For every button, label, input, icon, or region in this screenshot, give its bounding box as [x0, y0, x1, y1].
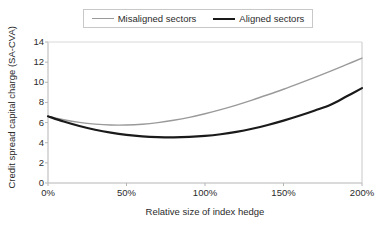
legend-label-misaligned: Misaligned sectors: [118, 14, 197, 24]
x-tick-label-group: 0%50%100%150%200%: [0, 0, 392, 231]
legend-line-icon-misaligned: [92, 18, 114, 19]
legend-item-aligned-sectors[interactable]: Aligned sectors: [213, 14, 304, 24]
legend-item-misaligned-sectors[interactable]: Misaligned sectors: [92, 14, 197, 24]
x-axis-title: Relative size of index hedge: [48, 206, 362, 217]
legend-line-icon-aligned: [213, 18, 235, 20]
x-tick-label: 200%: [332, 188, 392, 198]
x-tick-label: 100%: [175, 188, 235, 198]
chart-figure: 02468101214 0%50%100%150%200% Credit spr…: [0, 0, 392, 231]
x-tick-label: 50%: [97, 188, 157, 198]
legend-label-aligned: Aligned sectors: [239, 14, 304, 24]
x-tick-label: 0%: [18, 188, 78, 198]
chart-legend: Misaligned sectors Aligned sectors: [83, 9, 313, 28]
x-tick-label: 150%: [254, 188, 314, 198]
y-axis-title: Credit spread capital charge (SA-CVA): [6, 29, 17, 189]
